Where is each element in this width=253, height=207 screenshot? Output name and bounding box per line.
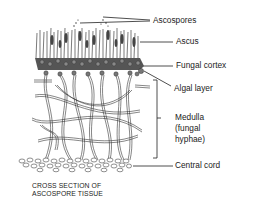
label-ascospores: Ascospores [153,16,196,25]
label-algal-layer: Algal layer [174,84,213,93]
fungal-cortex-band [35,58,144,70]
diagram-caption: CROSS SECTION OF ASCOSPORE TISSUE [32,182,103,198]
medulla-hyphae [32,75,150,160]
medulla-line-2: (fungal [175,124,205,133]
label-ascus: Ascus [176,37,199,46]
caption-line-2: ASCOSPORE TISSUE [32,190,103,198]
central-cord-cells [19,158,132,172]
lichen-cross-section-illustration [0,0,253,207]
caption-line-1: CROSS SECTION OF [32,182,103,190]
label-medulla: Medulla (fungal hyphae) [175,113,205,144]
label-central-cord: Central cord [175,161,220,170]
medulla-line-3: hyphae) [175,135,205,144]
medulla-line-1: Medulla [175,113,205,122]
label-fungal-cortex: Fungal cortex [176,61,226,70]
